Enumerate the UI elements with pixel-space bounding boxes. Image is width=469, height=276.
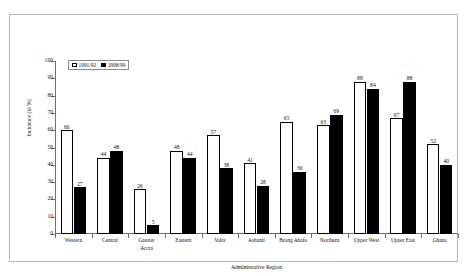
bar-value-label: 48 [174, 144, 180, 151]
bar[interactable]: 84 [367, 89, 380, 234]
bar-value-label: 88 [407, 75, 413, 82]
bar[interactable]: 40 [440, 165, 453, 234]
bar-value-label: 27 [77, 181, 83, 188]
y-axis-tick-label: 30 [47, 178, 53, 185]
bar-value-label: 26 [137, 183, 143, 190]
x-axis-category-label: Upper West [348, 237, 385, 245]
x-axis-tick-mark [458, 234, 459, 238]
bar-value-label: 5 [152, 219, 155, 226]
bar[interactable]: 63 [317, 125, 330, 234]
bar-group: 6369 [317, 61, 343, 234]
y-axis-line [55, 61, 56, 234]
y-axis-tick-label: 80 [47, 92, 53, 99]
y-axis-tick-label: 40 [47, 161, 53, 168]
bar[interactable]: 60 [61, 130, 74, 234]
bar-group: 6536 [280, 61, 306, 234]
bar-group: 4128 [244, 61, 270, 234]
page-title [0, 0, 469, 1]
x-axis-category-label: Central [92, 237, 129, 245]
bar-value-label: 69 [333, 108, 339, 115]
bar-value-label: 52 [430, 138, 436, 145]
bar-group: 5240 [427, 61, 453, 234]
bar[interactable]: 44 [183, 158, 196, 234]
y-axis-tick-label: 70 [47, 109, 53, 116]
x-axis-category-label: Western [55, 237, 92, 245]
figure-frame: Incidence (in %) 0102030405060708090100 … [9, 14, 458, 262]
y-axis-tick-label: 90 [47, 74, 53, 81]
x-axis-title: Administrative Region [55, 264, 458, 270]
legend-item[interactable]: 1998/99 [101, 62, 125, 68]
y-axis-tick-label: 60 [47, 126, 53, 133]
bar[interactable]: 28 [257, 186, 270, 234]
bar[interactable]: 52 [427, 144, 440, 234]
bar[interactable]: 88 [354, 82, 367, 234]
y-axis-tick-label: 20 [47, 195, 53, 202]
y-axis-tick-label: 50 [47, 144, 53, 151]
bar[interactable]: 27 [74, 187, 87, 234]
bar-group: 8884 [354, 61, 380, 234]
bar-value-label: 63 [320, 119, 326, 126]
legend-label: 1991/92 [79, 62, 97, 68]
x-axis-category-label: Ashanti [238, 237, 275, 245]
bar-value-label: 57 [211, 129, 217, 136]
y-axis-title: Incidence (in %) [26, 83, 32, 153]
legend-swatch-icon [101, 63, 106, 68]
chart-legend: 1991/921998/99 [68, 60, 129, 70]
bar-value-label: 84 [370, 82, 376, 89]
bar[interactable]: 41 [244, 163, 257, 234]
bar-group: 6027 [61, 61, 87, 234]
bar-group: 4844 [170, 61, 196, 234]
bar[interactable]: 67 [390, 118, 403, 234]
y-axis-tick-label: 100 [45, 57, 53, 64]
x-axis-category-label: Northern [311, 237, 348, 245]
bar-value-label: 48 [114, 144, 120, 151]
y-axis-tick-label: 0 [50, 230, 53, 237]
bar[interactable]: 44 [97, 158, 110, 234]
x-axis-category-label: Upper East [385, 237, 422, 245]
bar[interactable]: 48 [170, 151, 183, 234]
bar[interactable]: 26 [134, 189, 147, 234]
bar[interactable]: 65 [280, 122, 293, 234]
bar[interactable]: 36 [293, 172, 306, 234]
bar-value-label: 88 [357, 75, 363, 82]
bar[interactable]: 69 [330, 115, 343, 234]
x-axis-category-label: Ghana [421, 237, 458, 245]
bar-value-label: 38 [224, 162, 230, 169]
bar[interactable]: 88 [403, 82, 416, 234]
x-axis-category-label: Volta [202, 237, 239, 245]
bar-value-label: 67 [394, 112, 400, 119]
bar-value-label: 28 [260, 179, 266, 186]
x-axis-category-label: Brong Ahafo [275, 237, 312, 245]
bar-value-label: 60 [64, 124, 70, 131]
legend-swatch-icon [72, 63, 77, 68]
bar-group: 265 [134, 61, 160, 234]
bar[interactable]: 5 [147, 225, 160, 234]
x-axis-category-label: Eastern [165, 237, 202, 245]
plot-area: 0102030405060708090100 60274448265484457… [55, 61, 458, 234]
legend-item[interactable]: 1991/92 [72, 62, 96, 68]
bar[interactable]: 38 [220, 168, 233, 234]
y-axis-tick-label: 10 [47, 213, 53, 220]
bar-value-label: 41 [247, 157, 253, 164]
legend-label: 1998/99 [108, 62, 126, 68]
bar[interactable]: 48 [110, 151, 123, 234]
bar-value-label: 36 [297, 165, 303, 172]
bar-group: 5738 [207, 61, 233, 234]
x-axis-category-label: GreaterAccra [128, 237, 165, 252]
bar-value-label: 65 [284, 115, 290, 122]
bar-value-label: 44 [101, 151, 107, 158]
bar-group: 4448 [97, 61, 123, 234]
bar[interactable]: 57 [207, 135, 220, 234]
bar-group: 6788 [390, 61, 416, 234]
bar-value-label: 40 [443, 158, 449, 165]
bar-value-label: 44 [187, 151, 193, 158]
